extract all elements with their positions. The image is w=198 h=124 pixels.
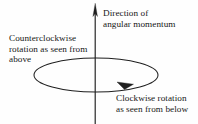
clockwise-label-line-1: Clockwise rotation [116,93,188,104]
angular-momentum-diagram: Direction of angular momentum Counterclo… [0,0,198,124]
counterclockwise-rotation-label: Counterclockwise rotation as seen from a… [9,33,87,65]
clockwise-label-line-2: as seen from below [116,104,188,115]
clockwise-rotation-label: Clockwise rotation as seen from below [116,93,188,114]
angular-momentum-label: Direction of angular momentum [103,8,176,29]
counterclockwise-label-line-2: rotation as seen from [9,44,87,55]
angular-momentum-label-line-2: angular momentum [103,19,176,30]
rotation-direction-arrowhead-icon [117,82,134,90]
angular-momentum-label-line-1: Direction of [103,8,176,19]
counterclockwise-label-line-3: above [9,54,87,65]
counterclockwise-label-line-1: Counterclockwise [9,33,87,44]
